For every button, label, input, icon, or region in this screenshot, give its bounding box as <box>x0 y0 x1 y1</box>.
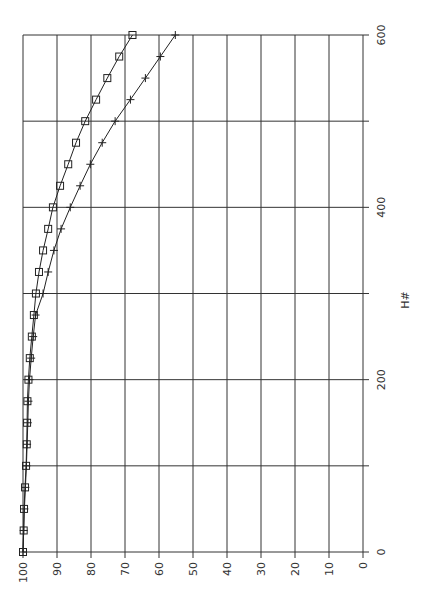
plus-marker-icon <box>27 354 35 362</box>
h-tick-label: 400 <box>375 197 388 218</box>
plus-marker-icon <box>141 74 149 82</box>
h-tick-label: 200 <box>375 369 388 390</box>
value-tick-label: 50 <box>187 562 200 576</box>
plus-marker-icon <box>57 225 65 233</box>
plus-marker-icon <box>66 203 74 211</box>
value-tick-label: 40 <box>221 562 234 576</box>
plus-marker-icon <box>86 160 94 168</box>
value-tick-label: 70 <box>119 562 132 576</box>
plus-marker-icon <box>98 139 106 147</box>
plus-marker-icon <box>44 268 52 276</box>
chart-grid <box>23 35 369 558</box>
value-tick-label: 30 <box>255 562 268 576</box>
rotated-line-chart: 01020304050607080901000200400600 H# <box>0 0 428 611</box>
value-tick-label: 60 <box>153 562 166 576</box>
plus-marker-icon <box>29 333 37 341</box>
plus-marker-icon <box>156 53 164 61</box>
plus-marker-icon <box>171 31 179 39</box>
plus-marker-icon <box>76 182 84 190</box>
value-tick-label: 90 <box>51 562 64 576</box>
value-tick-label: 0 <box>357 562 370 569</box>
value-tick-label: 80 <box>85 562 98 576</box>
plus-marker-icon <box>39 290 47 298</box>
h-tick-label: 0 <box>375 549 388 556</box>
plus-marker-icon <box>126 96 134 104</box>
plus-marker-icon <box>20 526 28 534</box>
value-tick-label: 20 <box>289 562 302 576</box>
x-axis-label: H# <box>399 291 412 309</box>
value-tick-label: 100 <box>17 562 30 583</box>
h-tick-label: 600 <box>375 25 388 46</box>
plus-marker-icon <box>19 548 27 556</box>
tick-labels: 01020304050607080901000200400600 <box>17 25 388 584</box>
value-tick-label: 10 <box>323 562 336 576</box>
plus-marker-icon <box>111 117 119 125</box>
plus-marker-icon <box>32 311 40 319</box>
